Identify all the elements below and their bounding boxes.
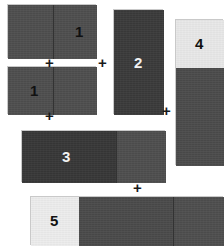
block-label-2: 2 xyxy=(134,55,142,70)
texture-overlay xyxy=(79,197,173,246)
block-5-seg-right xyxy=(173,197,224,246)
block-label-4: 4 xyxy=(195,36,203,51)
block-4[interactable]: 4 xyxy=(175,19,223,165)
block-5-seg-mid xyxy=(79,197,173,246)
texture-overlay xyxy=(173,197,224,246)
block-3-divider-1 xyxy=(116,131,117,183)
block-1[interactable]: 1 xyxy=(7,4,96,58)
texture-overlay xyxy=(8,5,53,59)
block-5-divider-1 xyxy=(173,197,174,246)
texture-overlay xyxy=(53,67,97,115)
plus-operator-icon: + xyxy=(45,55,54,70)
block-3[interactable]: 3 xyxy=(21,130,165,182)
texture-overlay xyxy=(176,68,224,166)
block-2[interactable]: 2 xyxy=(113,9,163,114)
block-label-3: 3 xyxy=(62,149,70,164)
plus-operator-icon: + xyxy=(45,108,54,123)
plus-operator-icon: + xyxy=(133,180,142,195)
plus-operator-icon: + xyxy=(162,103,171,118)
block-4-seg-bottom xyxy=(176,68,224,166)
diagram-canvas: 112435+++++ xyxy=(0,0,224,248)
plus-operator-icon: + xyxy=(98,55,107,70)
block-label-5: 5 xyxy=(50,213,58,228)
block-label-1: 1 xyxy=(75,24,83,39)
block-1-divider-1 xyxy=(53,5,54,59)
block-3-seg-right xyxy=(116,131,166,183)
block-label-1: 1 xyxy=(30,83,38,98)
block-1-seg-left xyxy=(8,5,53,59)
block-1-seg-right xyxy=(53,67,97,115)
texture-overlay xyxy=(116,131,166,183)
block-5[interactable]: 5 xyxy=(30,196,223,245)
